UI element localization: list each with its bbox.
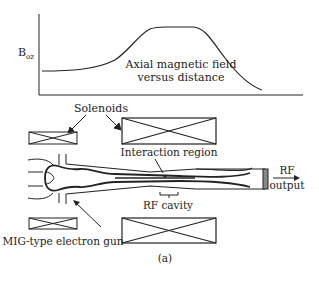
y-axis-label: Boz (18, 46, 34, 61)
gyrotron-diagram: Boz Axial magnetic field versus distance… (0, 0, 319, 281)
rf-cavity-brace (160, 192, 178, 198)
solenoid-lower-right (122, 218, 216, 243)
solenoids-label: Solenoids (74, 102, 128, 115)
cathode (45, 172, 54, 184)
tube-body (66, 164, 265, 194)
curve-caption-line1: Axial magnetic field (125, 58, 237, 71)
interaction-region-label: Interaction region (121, 146, 218, 158)
output-window (263, 169, 268, 189)
solenoid-arrows (68, 115, 121, 133)
interaction-point (163, 174, 166, 177)
solenoid-lower-left (29, 218, 77, 229)
gun-pointer (76, 203, 101, 227)
electron-gun-electrodes (28, 154, 66, 204)
figure-caption: (a) (158, 252, 172, 264)
arrow-head-icon (73, 200, 80, 206)
rf-cavity-label: RF cavity (143, 199, 193, 211)
rf-output-label-line2: output (269, 179, 305, 191)
solenoid-upper-left (29, 132, 77, 144)
electron-gun-label: MIG-type electron gun (2, 235, 123, 247)
rf-output-label-line1: RF (279, 164, 294, 176)
curve-caption-line2: versus distance (137, 71, 225, 84)
solenoid-upper-right (122, 118, 216, 144)
